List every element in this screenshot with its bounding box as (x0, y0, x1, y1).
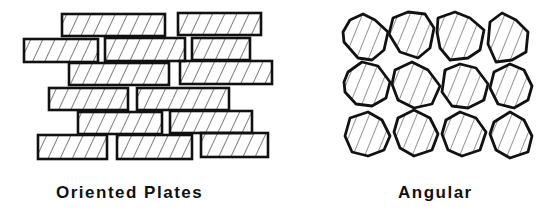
oriented-plates-figure (24, 13, 272, 159)
oriented-plates-label: Oriented Plates (56, 183, 203, 203)
angular-label: Angular (398, 183, 473, 203)
angular-particles-figure (343, 12, 532, 158)
